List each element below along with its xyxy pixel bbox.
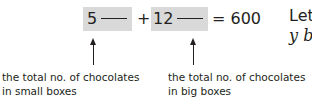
term2-coefficient: 12 bbox=[153, 9, 173, 28]
term2-blank bbox=[177, 18, 203, 19]
arrow-shaft-right bbox=[193, 44, 194, 65]
side-text: Let y b bbox=[289, 6, 312, 46]
arrow-shaft-left bbox=[93, 44, 94, 65]
term1: 5 bbox=[87, 8, 127, 30]
label-small-boxes: the total no. of chocolates in small box… bbox=[2, 70, 139, 98]
term1-coefficient: 5 bbox=[87, 9, 97, 28]
term2: 12 bbox=[153, 8, 203, 30]
label-big-boxes: the total no. of chocolates in big boxes bbox=[168, 70, 305, 98]
plus-sign: + bbox=[137, 8, 150, 30]
term1-blank bbox=[101, 18, 127, 19]
equals-result: = 600 bbox=[212, 8, 261, 30]
